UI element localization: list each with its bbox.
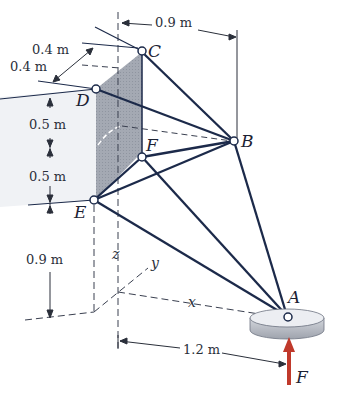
base-line-left <box>25 312 94 320</box>
joint-F <box>138 153 146 161</box>
dim-vertical-upper: 0.5 m <box>29 117 66 132</box>
y-axis-line <box>94 268 148 312</box>
dim-depth-lower: 0.4 m <box>10 59 47 74</box>
joint-B <box>230 137 238 145</box>
wall-line-D-ext <box>38 81 96 89</box>
dim-depth-upper: 0.4 m <box>32 42 69 57</box>
label-A: A <box>286 287 300 307</box>
label-F: F <box>145 135 159 155</box>
axis-z-label: z <box>111 246 120 262</box>
label-C: C <box>148 41 161 61</box>
axis-y-label: y <box>150 255 160 271</box>
wall-line-top <box>82 43 138 48</box>
label-D: D <box>75 90 90 110</box>
joint-C <box>138 47 146 55</box>
force-arrow <box>283 337 295 385</box>
label-E: E <box>73 202 87 222</box>
dash-C-level <box>82 65 120 68</box>
label-F-force: F <box>295 367 309 387</box>
joint-E <box>90 196 98 204</box>
dim-horizontal-base: 1.2 m <box>183 342 220 357</box>
axis-x-label: x <box>188 294 196 310</box>
dim-height-base: 0.9 m <box>26 252 63 267</box>
truss-diagram: 0.9 m 0.4 m 0.4 m 0.5 m 0.5 m 0.9 m 1.2 … <box>0 0 352 397</box>
joint-D <box>92 85 100 93</box>
label-B: B <box>240 131 254 151</box>
dim-vertical-lower: 0.5 m <box>29 169 66 184</box>
dim-top-width: 0.9 m <box>155 15 192 30</box>
joint-A <box>284 313 292 321</box>
